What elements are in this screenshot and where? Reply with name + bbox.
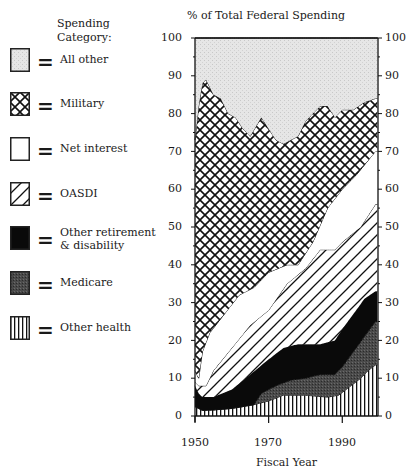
y-tick-right: 80 xyxy=(385,107,412,120)
y-tick-left: 80 xyxy=(150,107,182,120)
y-tick-right: 0 xyxy=(385,409,412,422)
x-axis-label: Fiscal Year xyxy=(195,456,378,469)
y-tick-right: 20 xyxy=(385,334,412,347)
stacked-area-plot xyxy=(0,0,412,475)
y-tick-right: 30 xyxy=(385,296,412,309)
y-tick-left: 20 xyxy=(150,334,182,347)
y-tick-left: 90 xyxy=(150,69,182,82)
area-layers xyxy=(195,38,377,416)
y-tick-left: 30 xyxy=(150,296,182,309)
y-tick-left: 10 xyxy=(150,371,182,384)
y-tick-right: 60 xyxy=(385,182,412,195)
y-tick-right: 50 xyxy=(385,220,412,233)
x-tick: 1970 xyxy=(248,436,288,449)
y-tick-right: 10 xyxy=(385,371,412,384)
y-tick-left: 40 xyxy=(150,258,182,271)
y-tick-left: 50 xyxy=(150,220,182,233)
y-tick-right: 90 xyxy=(385,69,412,82)
x-tick: 1990 xyxy=(322,436,362,449)
y-tick-left: 70 xyxy=(150,145,182,158)
x-tick: 1950 xyxy=(175,436,215,449)
y-tick-right: 40 xyxy=(385,258,412,271)
y-tick-left: 100 xyxy=(150,31,182,44)
y-tick-left: 60 xyxy=(150,182,182,195)
y-tick-right: 70 xyxy=(385,145,412,158)
y-tick-right: 100 xyxy=(385,31,412,44)
y-tick-left: 0 xyxy=(150,409,182,422)
